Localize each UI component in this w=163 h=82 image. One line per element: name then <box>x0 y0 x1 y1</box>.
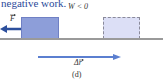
force-arrow-icon <box>0 25 21 33</box>
displacement-label: Δr <box>74 58 82 67</box>
panel-label: (d) <box>72 70 81 79</box>
force-label: F <box>10 14 15 23</box>
arrows-layer <box>0 0 163 82</box>
